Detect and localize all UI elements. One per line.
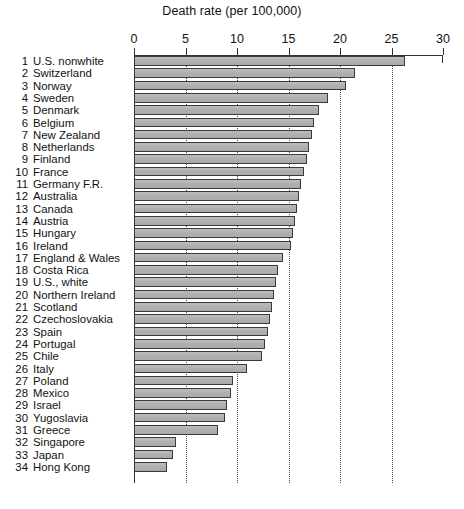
category-label: 5Denmark <box>0 104 128 116</box>
bar-row <box>134 215 443 227</box>
category-rank: 29 <box>0 399 28 411</box>
category-rank: 2 <box>0 67 28 79</box>
category-name: Singapore <box>33 436 85 448</box>
category-label: 19U.S., white <box>0 276 128 288</box>
x-axis-tick-5 <box>186 48 187 55</box>
category-rank: 6 <box>0 117 28 129</box>
bar <box>134 241 291 251</box>
category-label: 15Hungary <box>0 227 128 239</box>
bar-row <box>134 387 443 399</box>
category-label: 28Mexico <box>0 387 128 399</box>
bar-row <box>134 264 443 276</box>
category-label: 13Canada <box>0 203 128 215</box>
bar <box>134 167 304 177</box>
category-name: Switzerland <box>33 67 92 79</box>
category-name: England & Wales <box>33 252 120 264</box>
category-label: 24Portugal <box>0 338 128 350</box>
category-name: Northern Ireland <box>33 289 115 301</box>
bar <box>134 327 268 337</box>
category-rank: 1 <box>0 55 28 67</box>
category-label: 20Northern Ireland <box>0 289 128 301</box>
category-name: Austria <box>33 215 68 227</box>
x-tick-label-10: 10 <box>230 32 244 46</box>
bar <box>134 339 265 349</box>
bar-row <box>134 301 443 313</box>
x-axis-tick-15 <box>289 48 290 55</box>
bar-row <box>134 141 443 153</box>
category-name: Belgium <box>33 117 74 129</box>
category-label: 29Israel <box>0 399 128 411</box>
category-name: U.S., white <box>33 276 88 288</box>
category-name: Italy <box>33 363 54 375</box>
bar <box>134 81 346 91</box>
bar-row <box>134 449 443 461</box>
bar <box>134 191 299 201</box>
category-rank: 21 <box>0 301 28 313</box>
bar-row <box>134 129 443 141</box>
bar <box>134 130 312 140</box>
x-tick-label-25: 25 <box>385 32 399 46</box>
category-rank: 18 <box>0 264 28 276</box>
category-rank: 33 <box>0 449 28 461</box>
category-name: Japan <box>33 449 64 461</box>
bar-row <box>134 252 443 264</box>
category-label: 31Greece <box>0 424 128 436</box>
category-rank: 28 <box>0 387 28 399</box>
category-name: Sweden <box>33 92 74 104</box>
category-rank: 32 <box>0 436 28 448</box>
category-name: Yugoslavia <box>33 412 88 424</box>
category-name: Denmark <box>33 104 79 116</box>
bar-row <box>134 375 443 387</box>
category-label: 14Austria <box>0 215 128 227</box>
bar-row <box>134 313 443 325</box>
category-rank: 15 <box>0 227 28 239</box>
bar-row <box>134 104 443 116</box>
category-rank: 5 <box>0 104 28 116</box>
category-label: 4Sweden <box>0 92 128 104</box>
bar <box>134 105 319 115</box>
category-rank: 30 <box>0 412 28 424</box>
bar-row <box>134 178 443 190</box>
bar <box>134 68 355 78</box>
bar <box>134 93 328 103</box>
bar-row <box>134 424 443 436</box>
bar-row <box>134 289 443 301</box>
bar-row <box>134 117 443 129</box>
category-rank: 19 <box>0 276 28 288</box>
category-name: Czechoslovakia <box>33 313 113 325</box>
category-label: 16Ireland <box>0 240 128 252</box>
category-name: Mexico <box>33 387 69 399</box>
category-label: 7New Zealand <box>0 129 128 141</box>
category-label: 34Hong Kong <box>0 461 128 473</box>
category-label: 21Scotland <box>0 301 128 313</box>
category-rank: 14 <box>0 215 28 227</box>
category-name: Hungary <box>33 227 76 239</box>
category-label: 3Norway <box>0 80 128 92</box>
category-rank: 3 <box>0 80 28 92</box>
category-rank: 24 <box>0 338 28 350</box>
category-name: Israel <box>33 399 61 411</box>
bar-row <box>134 399 443 411</box>
category-rank: 17 <box>0 252 28 264</box>
category-rank: 9 <box>0 153 28 165</box>
category-rank: 23 <box>0 326 28 338</box>
x-tick-label-5: 5 <box>182 32 189 46</box>
x-axis-tick-20 <box>340 48 341 55</box>
bar-row <box>134 326 443 338</box>
category-rank: 4 <box>0 92 28 104</box>
bar-row <box>134 338 443 350</box>
bar <box>134 179 301 189</box>
category-label: 6Belgium <box>0 117 128 129</box>
category-name: Poland <box>33 375 68 387</box>
category-name: Portugal <box>33 338 75 350</box>
bar <box>134 142 309 152</box>
bar <box>134 364 247 374</box>
category-rank: 16 <box>0 240 28 252</box>
bar <box>134 290 274 300</box>
category-label: 30Yugoslavia <box>0 412 128 424</box>
x-axis-tick-0 <box>134 48 135 55</box>
bar <box>134 253 283 263</box>
category-label: 22Czechoslovakia <box>0 313 128 325</box>
category-rank: 26 <box>0 363 28 375</box>
bar <box>134 425 218 435</box>
